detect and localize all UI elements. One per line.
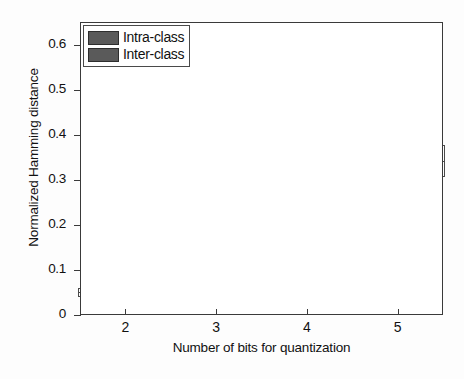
legend-item-inter-class: Inter-class (88, 46, 184, 63)
y-axis-tick (74, 315, 81, 316)
y-axis-tick (74, 45, 81, 46)
chart-figure: 00.10.20.30.40.50.62345 Normalized Hammi… (0, 0, 464, 379)
x-axis-title: Number of bits for quantization (80, 340, 443, 355)
x-axis-tick (125, 309, 126, 315)
x-axis-tick-label: 3 (201, 319, 231, 335)
x-axis-tick-label: 2 (110, 319, 140, 335)
y-axis-tick (74, 90, 81, 91)
x-axis-tick (307, 309, 308, 315)
y-axis-tick (74, 180, 81, 181)
legend-item-intra-class: Intra-class (88, 29, 184, 46)
y-axis-tick (74, 225, 81, 226)
y-axis-tick (74, 270, 81, 271)
x-axis-tick-label: 5 (383, 319, 413, 335)
legend-swatch-intra-class (88, 31, 119, 45)
legend-swatch-inter-class (88, 48, 119, 62)
y-axis-tick (74, 135, 81, 136)
legend-label-inter-class: Inter-class (123, 47, 184, 62)
x-axis-tick-label: 4 (292, 319, 322, 335)
y-axis-title: Normalized Hamming distance (26, 33, 41, 283)
x-axis-tick (398, 309, 399, 315)
legend: Intra-class Inter-class (83, 25, 190, 67)
legend-label-intra-class: Intra-class (123, 30, 184, 45)
y-axis-tick-label: 0 (28, 306, 66, 321)
x-axis-tick (216, 309, 217, 315)
